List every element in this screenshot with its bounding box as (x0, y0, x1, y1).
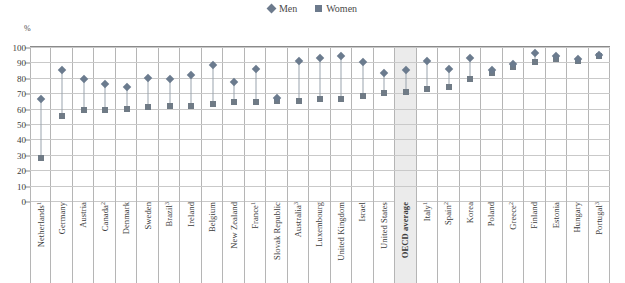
x-axis-label-cell: Slovak Republic (266, 200, 287, 283)
x-axis-label-cell: Germany (51, 200, 72, 283)
x-axis-label-cell: Greece2 (503, 200, 524, 283)
y-tick-label-60: 60 (17, 105, 26, 115)
y-tick-label-100: 100 (13, 43, 27, 53)
gender-gap-connector (40, 99, 41, 158)
data-point-group (331, 47, 352, 201)
footnote-marker: 3 (293, 202, 299, 205)
data-point-group (352, 47, 373, 201)
x-axis-label-cell: France1 (245, 200, 266, 283)
data-point-group (481, 47, 502, 201)
y-tick-label-40: 40 (17, 135, 26, 145)
data-point-group (288, 47, 309, 201)
x-axis-label-cell: Finland (524, 200, 545, 283)
footnote-marker: 2 (99, 202, 105, 205)
data-point-group (438, 47, 459, 201)
women-data-point (467, 76, 473, 82)
x-axis-label-cell: Denmark (116, 200, 137, 283)
x-axis-labels: Netherlands1GermanyAustriaCanada2Denmark… (30, 200, 610, 283)
x-axis-label-text: Denmark (121, 202, 131, 234)
men-data-point (294, 57, 302, 65)
x-axis-label-text: New Zealand (229, 202, 239, 249)
women-data-point (102, 107, 108, 113)
footnote-marker: 1 (421, 202, 427, 205)
footnote-marker: 3 (593, 202, 599, 205)
x-axis-label-text: Sweden (143, 202, 153, 230)
x-axis-label-text: France1 (250, 202, 261, 229)
x-axis-label-cell: Spain2 (438, 200, 459, 283)
x-axis-label-text: Korea (465, 202, 475, 223)
data-point-group (374, 47, 395, 201)
data-point-group (524, 47, 545, 201)
y-tick-label-90: 90 (17, 58, 26, 68)
men-data-point (101, 80, 109, 88)
x-axis-label-text: OECD average (400, 202, 410, 258)
x-axis-label-text: Netherlands1 (35, 202, 46, 247)
men-data-point (466, 54, 474, 62)
x-axis-label-text: Australia3 (293, 202, 304, 237)
men-data-point (423, 57, 431, 65)
women-data-point (231, 99, 237, 105)
gender-gap-connector (62, 70, 63, 116)
men-data-point (359, 58, 367, 66)
x-axis-label-cell: New Zealand (223, 200, 244, 283)
x-axis-label-text: Hungary (572, 202, 582, 232)
men-data-point (122, 83, 130, 91)
men-data-point (251, 64, 259, 72)
x-axis-label-cell: Australia3 (288, 200, 309, 283)
x-axis-label-cell: Brazil3 (159, 200, 180, 283)
x-axis-label-cell: Portugal3 (589, 200, 610, 283)
men-data-point (402, 66, 410, 74)
women-data-point (381, 90, 387, 96)
women-data-point (210, 101, 216, 107)
men-diamond-marker-icon (266, 4, 276, 14)
y-tick-label-50: 50 (17, 120, 26, 130)
gender-gap-connector (341, 56, 342, 99)
x-axis-label-text: Israel (357, 202, 367, 221)
women-data-point (59, 113, 65, 119)
women-data-point (38, 155, 44, 161)
men-data-point (445, 64, 453, 72)
chart-legend: Men Women (0, 3, 625, 14)
legend-item-women: Women (315, 3, 357, 14)
x-axis-label-text: Ireland (186, 202, 196, 227)
x-axis-label-text: Portugal3 (593, 202, 604, 235)
x-axis-label-text: Estonia (551, 202, 561, 228)
men-data-point (79, 75, 87, 83)
legend-item-men: Men (268, 3, 297, 14)
data-point-group (266, 47, 287, 201)
x-axis-label-cell: Korea (460, 200, 481, 283)
x-axis-label-text: United States (379, 202, 389, 249)
women-data-point (188, 103, 194, 109)
x-axis-label-cell: Belgium (202, 200, 223, 283)
women-data-point (424, 86, 430, 92)
data-point-group (589, 47, 610, 201)
x-axis-label-text: Austria (78, 202, 88, 228)
x-axis-label-text: Spain2 (443, 202, 454, 225)
x-axis-label-cell: Canada2 (94, 200, 115, 283)
x-axis-label-text: United Kingdom (336, 202, 346, 261)
x-axis-label-text: Brazil3 (164, 202, 175, 226)
data-point-group (116, 47, 137, 201)
data-point-group (395, 47, 416, 201)
footnote-marker: 2 (507, 202, 513, 205)
men-data-point (144, 74, 152, 82)
men-data-point (337, 52, 345, 60)
x-axis-label-text: Finland (529, 202, 539, 229)
legend-label-women: Women (326, 3, 357, 14)
data-point-group (309, 47, 330, 201)
data-point-group (223, 47, 244, 201)
x-axis-label-cell: Israel (352, 200, 373, 283)
men-data-point (380, 69, 388, 77)
x-axis-label-cell: Ireland (180, 200, 201, 283)
x-axis-label-cell: United States (374, 200, 395, 283)
footnote-marker: 3 (164, 202, 170, 205)
data-point-group (245, 47, 266, 201)
x-axis-label-cell: Poland (481, 200, 502, 283)
chart-container: Men Women % 0102030405060708090100 Nethe… (0, 0, 625, 283)
data-point-group (94, 47, 115, 201)
gender-gap-connector (319, 58, 320, 100)
women-data-point (253, 99, 259, 105)
men-data-point (316, 54, 324, 62)
data-point-group (567, 47, 588, 201)
women-data-point (532, 59, 538, 65)
